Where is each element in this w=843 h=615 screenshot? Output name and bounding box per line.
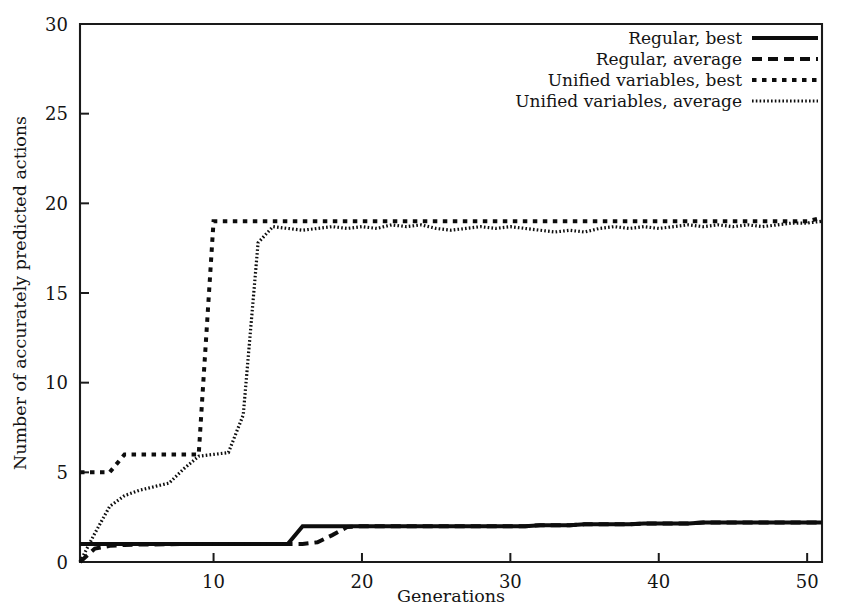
legend-label: Unified variables, best: [548, 70, 742, 90]
legend-label: Regular, average: [596, 49, 742, 69]
x-tick-label: 10: [202, 571, 225, 592]
y-tick-label: 5: [57, 462, 68, 483]
x-tick-label: 50: [796, 571, 819, 592]
legend-label: Regular, best: [628, 28, 742, 48]
line-chart: 1020304050 051015202530 Regular, bestReg…: [0, 0, 843, 615]
series-line: [80, 218, 822, 473]
legend-label: Unified variables, average: [515, 91, 742, 111]
chart-legend: Regular, bestRegular, averageUnified var…: [515, 28, 818, 111]
x-tick-label: 40: [647, 571, 670, 592]
chart-page: 1020304050 051015202530 Regular, bestReg…: [0, 0, 843, 615]
y-tick-label: 10: [45, 372, 68, 393]
x-axis-title: Generations: [397, 586, 505, 606]
y-tick-label: 0: [57, 552, 68, 573]
series-line: [80, 523, 822, 545]
y-tick-label: 25: [45, 103, 68, 124]
y-axis-title: Number of accurately predicted actions: [10, 116, 30, 470]
x-axis-ticks: 1020304050: [202, 553, 819, 592]
y-tick-label: 30: [45, 14, 68, 35]
y-axis-ticks: 051015202530: [45, 14, 89, 573]
series-line: [80, 221, 822, 562]
data-series: [80, 218, 822, 562]
x-tick-label: 20: [351, 571, 374, 592]
y-tick-label: 20: [45, 193, 68, 214]
series-line: [80, 523, 822, 562]
y-tick-label: 15: [45, 283, 68, 304]
